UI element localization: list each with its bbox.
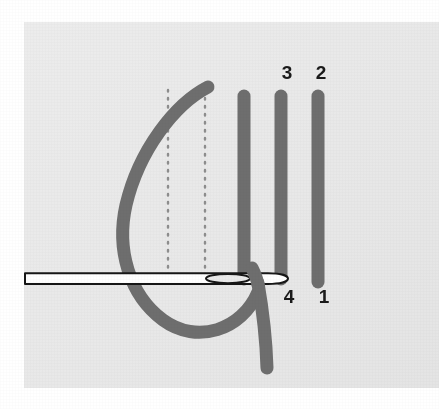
label-2: 2	[316, 62, 327, 83]
working-thread-crossover	[252, 268, 258, 285]
needle-eye	[206, 274, 250, 283]
panel-background	[24, 22, 439, 388]
diagram-canvas: 3 2 4 1	[0, 0, 439, 409]
stitch-diagram-figure: 3 2 4 1	[0, 0, 439, 409]
label-4: 4	[284, 286, 295, 307]
label-1: 1	[319, 286, 330, 307]
label-3: 3	[282, 62, 293, 83]
